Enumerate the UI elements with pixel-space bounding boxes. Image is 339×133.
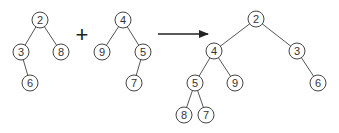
node-label: 2 xyxy=(253,13,259,25)
tree-node: 6 xyxy=(22,75,38,91)
tree-node: 5 xyxy=(135,44,151,60)
tree-node: 3 xyxy=(13,44,29,60)
node-label: 9 xyxy=(99,46,105,58)
tree-result: 24359687 xyxy=(176,11,326,123)
tree-node: 7 xyxy=(126,75,142,91)
tree-tree2: 4957 xyxy=(94,12,151,91)
tree-node: 2 xyxy=(32,12,48,28)
tree-node: 4 xyxy=(115,12,131,28)
node-label: 4 xyxy=(211,45,217,57)
tree-node: 8 xyxy=(176,107,192,123)
tree-node: 8 xyxy=(53,44,69,60)
node-label: 7 xyxy=(131,77,137,89)
tree-node: 2 xyxy=(248,11,264,27)
node-label: 6 xyxy=(315,77,321,89)
tree-node: 6 xyxy=(310,75,326,91)
tree-node: 7 xyxy=(198,107,214,123)
node-label: 3 xyxy=(18,46,24,58)
node-label: 2 xyxy=(37,14,43,26)
node-label: 9 xyxy=(232,77,238,89)
node-label: 6 xyxy=(27,77,33,89)
node-label: 3 xyxy=(294,45,300,57)
node-label: 5 xyxy=(140,46,146,58)
plus-operator: + xyxy=(76,22,89,47)
tree-node: 5 xyxy=(187,75,203,91)
tree-node: 4 xyxy=(206,43,222,59)
node-label: 7 xyxy=(203,109,209,121)
node-label: 8 xyxy=(181,109,187,121)
tree-node: 9 xyxy=(227,75,243,91)
node-label: 5 xyxy=(192,77,198,89)
tree-node: 3 xyxy=(289,43,305,59)
node-label: 4 xyxy=(120,14,126,26)
nodes-layer: 2386495724359687 xyxy=(13,11,326,123)
tree-node: 9 xyxy=(94,44,110,60)
tree-tree1: 2386 xyxy=(13,12,69,91)
node-label: 8 xyxy=(58,46,64,58)
tree-merge-diagram: 2386495724359687 + xyxy=(0,0,339,133)
